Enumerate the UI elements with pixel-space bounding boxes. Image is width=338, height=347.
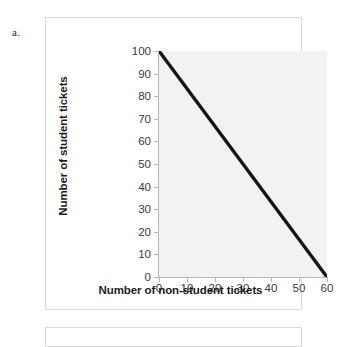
y-axis-tick-label: 60 (124, 136, 151, 148)
y-axis-tick (154, 164, 158, 165)
y-axis-tick-label: 50 (124, 159, 151, 171)
y-axis-tick-label: 100 (124, 46, 151, 58)
y-axis-tick-label: 70 (124, 114, 151, 126)
figure-item-label: a. (12, 26, 20, 38)
next-figure-frame (45, 327, 302, 347)
y-axis-tick (154, 209, 158, 210)
y-axis-tick-label: 80 (124, 91, 151, 103)
y-axis-tick (154, 119, 158, 120)
x-axis-tick-label: 60 (312, 283, 338, 295)
y-axis-tick-label: 0 (124, 272, 151, 284)
x-axis-title: Number of non-student tickets (58, 284, 303, 296)
y-axis-line (158, 51, 159, 278)
y-axis-tick (154, 187, 158, 188)
y-axis-tick (154, 141, 158, 142)
y-axis-tick-label: 30 (124, 204, 151, 216)
figure-frame: 100 90 80 70 60 50 40 30 20 10 0 0 10 (45, 17, 302, 310)
y-axis-tick (154, 51, 158, 52)
y-axis-tick (154, 254, 158, 255)
y-axis-title: Number of student tickets (57, 46, 69, 246)
y-axis-tick-label: 90 (124, 69, 151, 81)
y-axis-tick-label: 40 (124, 182, 151, 194)
y-axis-tick (154, 74, 158, 75)
plot-area (159, 51, 327, 277)
y-axis-tick-label: 20 (124, 227, 151, 239)
y-axis-tick (154, 232, 158, 233)
y-axis-tick (154, 96, 158, 97)
series-line (159, 51, 327, 277)
y-axis-tick (154, 277, 158, 278)
y-axis-tick-label: 10 (124, 249, 151, 261)
chart-plot-svg (159, 51, 327, 277)
